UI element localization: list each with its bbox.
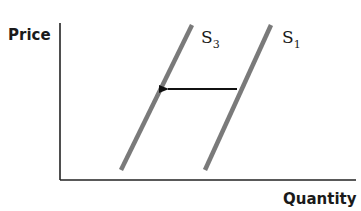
curve-label-s3: S3 (201, 27, 220, 51)
y-axis-label: Price (8, 26, 51, 44)
x-axis-label: Quantity (283, 190, 357, 208)
supply-shift-diagram: Price Quantity S3 S1 (0, 0, 361, 211)
supply-curve-s3 (121, 25, 192, 170)
curve-label-s1: S1 (282, 27, 301, 51)
